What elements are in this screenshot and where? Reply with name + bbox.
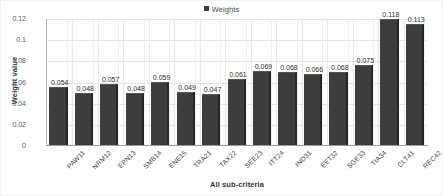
- bar[interactable]: [355, 65, 373, 145]
- bar-slot: 0.048: [72, 19, 97, 145]
- y-axis-tick-label: 0.06: [0, 79, 26, 87]
- bar-slot: 0.048: [123, 19, 148, 145]
- bar[interactable]: [49, 87, 67, 145]
- x-axis-tick: TAX22: [199, 147, 224, 180]
- x-axis-tick: SGE33: [326, 147, 351, 180]
- y-axis-tick-label: 0.12: [0, 15, 26, 23]
- bar-slot: 0.054: [47, 19, 72, 145]
- x-axis-tick: IND31: [275, 147, 300, 180]
- bar-slot: 0.059: [149, 19, 174, 145]
- bar-slot: 0.061: [225, 19, 250, 145]
- bar[interactable]: [151, 82, 169, 145]
- bar-slot: 0.049: [174, 19, 199, 145]
- x-axis-tick: ENE15: [148, 147, 173, 180]
- x-axis-tick: SMB14: [122, 147, 147, 180]
- x-axis-tick: TIA34: [352, 147, 377, 180]
- x-axis-tick: SEE23: [224, 147, 249, 180]
- x-axis-tick: PAW11: [46, 147, 71, 180]
- bar-data-label: 0.113: [401, 16, 432, 24]
- bar-slot: 0.068: [327, 19, 352, 145]
- plot-area: 0.0540.0480.0570.0480.0590.0490.0470.061…: [46, 19, 428, 146]
- bar[interactable]: [228, 79, 246, 145]
- bar-slot: 0.047: [200, 19, 225, 145]
- x-axis-tick: ITT24: [250, 147, 275, 180]
- bar-slot: 0.075: [353, 19, 378, 145]
- bars-layer: 0.0540.0480.0570.0480.0590.0490.0470.061…: [47, 19, 428, 145]
- y-axis-tick-label: 0.08: [0, 57, 26, 65]
- bar[interactable]: [100, 84, 118, 145]
- bar[interactable]: [177, 92, 195, 145]
- y-axis-tick-label: 0.02: [0, 121, 26, 129]
- y-axis-tick-label: 0.04: [0, 100, 26, 108]
- legend-swatch-icon: [204, 6, 209, 11]
- bar-slot: 0.057: [98, 19, 123, 145]
- x-axis-tick: NRM12: [71, 147, 96, 180]
- x-axis-tick: EPN13: [97, 147, 122, 180]
- x-axis-tick: EET32: [301, 147, 326, 180]
- bar-slot: 0.068: [276, 19, 301, 145]
- bar-slot: 0.113: [404, 19, 429, 145]
- bar-data-label: 0.048: [121, 85, 152, 93]
- x-axis-tick: CLT41: [377, 147, 402, 180]
- bar[interactable]: [304, 74, 322, 145]
- bar-data-label: 0.057: [95, 76, 126, 84]
- x-axis-ticks: PAW11NRM12EPN13SMB14ENE15TRA21TAX22SEE23…: [46, 147, 428, 180]
- bar[interactable]: [380, 19, 398, 145]
- bar-data-label: 0.059: [146, 74, 177, 82]
- bar[interactable]: [278, 72, 296, 145]
- bar[interactable]: [253, 71, 271, 145]
- bar[interactable]: [202, 94, 220, 145]
- legend-entry-weights: Weights: [204, 3, 240, 16]
- bar-slot: 0.069: [251, 19, 276, 145]
- bar-data-label: 0.048: [70, 85, 101, 93]
- bar-data-label: 0.075: [350, 57, 381, 65]
- bar-data-label: 0.061: [223, 71, 254, 79]
- y-axis-tick-label: 0.1: [0, 36, 26, 44]
- bar-slot: 0.118: [378, 19, 403, 145]
- bar-chart: Weights Weight value 00.020.040.060.080.…: [0, 0, 443, 196]
- x-axis-title: All sub-criteria: [46, 180, 428, 189]
- legend-label: Weights: [212, 4, 240, 16]
- bar[interactable]: [75, 93, 93, 145]
- x-axis-tick: REC42: [403, 147, 428, 180]
- bar-data-label: 0.068: [325, 64, 356, 72]
- y-axis-tick-label: 0: [0, 142, 26, 150]
- bar[interactable]: [406, 24, 424, 145]
- bar[interactable]: [329, 72, 347, 145]
- bar-data-label: 0.047: [197, 86, 228, 94]
- x-axis-tick-label: REC42: [422, 149, 443, 170]
- bar[interactable]: [126, 93, 144, 145]
- x-axis-tick: TRA21: [173, 147, 198, 180]
- bar-slot: 0.066: [302, 19, 327, 145]
